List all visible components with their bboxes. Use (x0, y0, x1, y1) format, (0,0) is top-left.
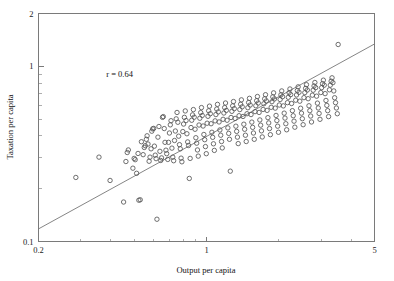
data-point (326, 114, 330, 118)
data-point (298, 106, 302, 110)
data-point (298, 99, 302, 103)
data-point (238, 107, 242, 111)
data-point (266, 115, 270, 119)
data-point (133, 157, 137, 161)
data-point (307, 104, 311, 108)
data-point (319, 90, 323, 94)
plot-canvas: 0.2 1 5 2 1 0.1 Output per capita Taxati… (0, 0, 394, 281)
data-point (124, 159, 128, 163)
data-point (230, 109, 234, 113)
data-point (227, 137, 231, 141)
data-point (199, 105, 203, 109)
axis-major-ticks (39, 14, 375, 242)
data-point (267, 126, 271, 130)
data-point (278, 97, 282, 101)
data-point (250, 120, 254, 124)
data-point (215, 102, 219, 106)
data-point (267, 121, 271, 125)
data-point (141, 152, 145, 156)
data-point (242, 122, 246, 126)
data-point (259, 129, 263, 133)
data-point (214, 112, 218, 116)
x-tick-label-min: 0.2 (33, 245, 44, 255)
data-point (315, 101, 319, 105)
data-point (246, 106, 250, 110)
data-point (252, 137, 256, 141)
data-point (282, 111, 286, 115)
data-point (226, 126, 230, 130)
data-point (225, 118, 229, 122)
data-point (306, 96, 310, 100)
data-point (194, 136, 198, 140)
data-point (220, 146, 224, 150)
data-point (211, 142, 215, 146)
x-axis-title: Output per capita (176, 265, 235, 275)
data-point (258, 123, 262, 127)
data-point (204, 151, 208, 155)
correlation-annotation: r = 0.64 (106, 69, 133, 79)
data-point (308, 108, 312, 112)
data-point (131, 166, 135, 170)
y-axis-title: Taxation per capita (5, 94, 15, 159)
data-point (191, 107, 195, 111)
data-point (314, 94, 318, 98)
y-tick-label-mid: 1 (29, 61, 33, 71)
data-point (235, 135, 239, 139)
data-point (249, 112, 253, 116)
data-point (121, 200, 125, 204)
data-point (260, 135, 264, 139)
data-point (158, 149, 162, 153)
data-point (269, 105, 273, 109)
data-point (222, 111, 226, 115)
data-point (286, 95, 290, 99)
data-point (172, 138, 176, 142)
data-point (181, 129, 185, 133)
data-point (148, 155, 152, 159)
data-point (247, 96, 251, 100)
data-point (325, 108, 329, 112)
data-point (219, 133, 223, 137)
data-point (155, 217, 159, 221)
data-point (283, 116, 287, 120)
y-tick-label-min: 0.1 (23, 237, 34, 247)
data-point (251, 131, 255, 135)
data-point (231, 99, 235, 103)
data-point (156, 135, 160, 139)
data-point (257, 110, 261, 114)
data-point (268, 132, 272, 136)
data-point (303, 90, 307, 94)
data-point (301, 123, 305, 127)
data-point (198, 116, 202, 120)
data-point (188, 156, 192, 160)
data-point (74, 175, 78, 179)
y-axis-minor-ticks (39, 14, 44, 242)
data-point (335, 112, 339, 116)
data-point (169, 119, 173, 123)
data-point (317, 111, 321, 115)
data-point (332, 89, 336, 93)
data-point (234, 124, 238, 128)
data-point (273, 106, 277, 110)
data-point (284, 122, 288, 126)
data-point (147, 159, 151, 163)
data-point (185, 132, 189, 136)
data-point (299, 111, 303, 115)
data-point (336, 42, 340, 46)
data-point (275, 118, 279, 122)
data-point (316, 106, 320, 110)
data-point (263, 93, 267, 97)
x-tick-label-max: 5 (372, 245, 376, 255)
data-point (234, 129, 238, 133)
data-point (292, 119, 296, 123)
data-point (152, 144, 156, 148)
data-point (242, 127, 246, 131)
x-tick-label-mid: 1 (204, 245, 208, 255)
data-point (302, 95, 306, 99)
data-point (173, 129, 177, 133)
data-point (97, 155, 101, 159)
data-point (334, 106, 338, 110)
regression-line (39, 44, 375, 229)
data-point (210, 135, 214, 139)
data-point (203, 144, 207, 148)
data-point (281, 104, 285, 108)
